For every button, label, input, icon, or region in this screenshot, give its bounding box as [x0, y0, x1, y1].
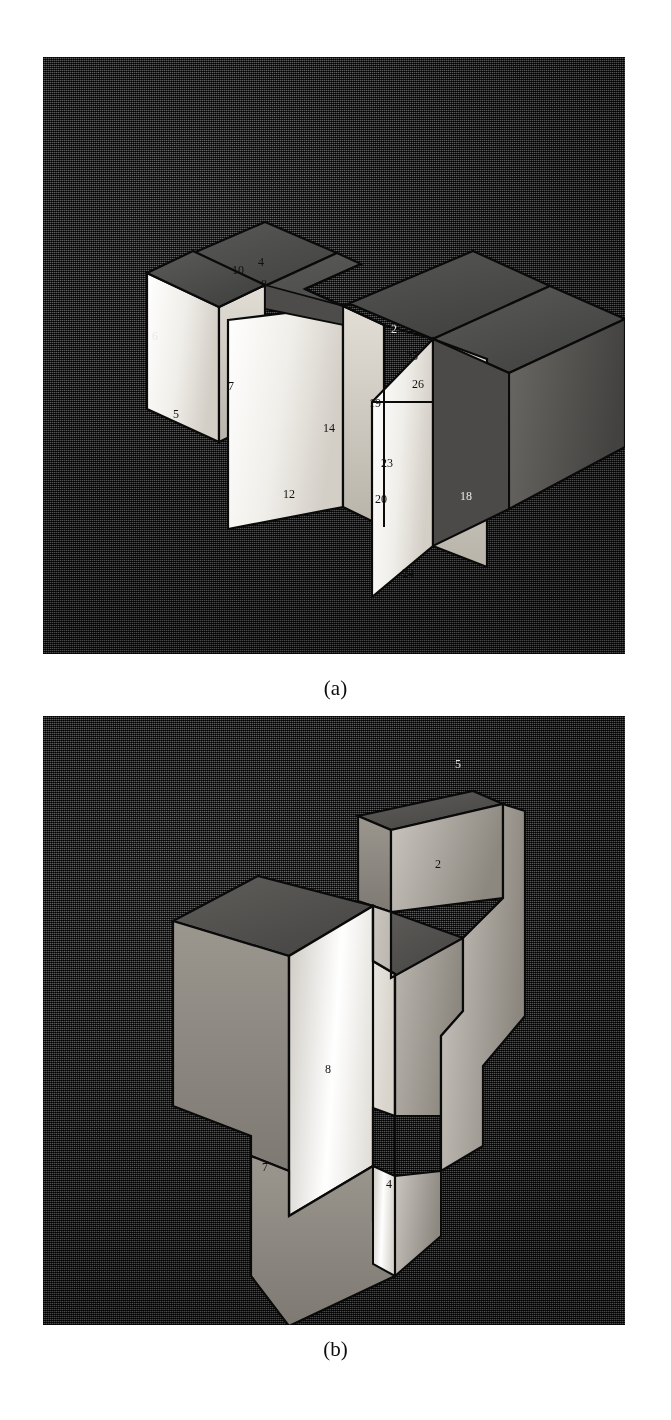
caption-b: (b) [0, 1337, 671, 1362]
caption-a: (a) [0, 676, 671, 701]
panel-b-left-face [173, 921, 289, 1171]
label-a-5: 14 [323, 421, 335, 435]
panel-a: 10 4 8 7 12 14 5 6 25 26 19 23 20 24 18 … [43, 57, 625, 654]
label-b-0: 2 [435, 857, 441, 871]
label-a-10: 19 [369, 396, 381, 410]
label-a-0: 10 [232, 263, 244, 277]
panel-b-lower-extension [251, 1156, 441, 1325]
label-a-4: 12 [283, 487, 295, 501]
label-b-2: 4 [386, 1177, 392, 1191]
panel-b-upper-boss [358, 791, 503, 912]
figure-container: 10 4 8 7 12 14 5 6 25 26 19 23 20 24 18 … [0, 0, 671, 1420]
panel-a-solid-model: 10 4 8 7 12 14 5 6 25 26 19 23 20 24 18 … [43, 57, 625, 654]
label-b-4: 5 [455, 757, 461, 771]
label-b-3: 7 [262, 1160, 268, 1174]
label-a-7: 6 [152, 329, 158, 343]
label-a-6: 5 [173, 407, 179, 421]
label-a-9: 26 [412, 377, 424, 391]
label-b-1: 8 [325, 1062, 331, 1076]
label-a-2: 8 [261, 277, 267, 291]
panel-b-solid-model: 2 8 4 7 5 [43, 716, 625, 1325]
label-a-13: 24 [402, 566, 414, 580]
panel-b: 2 8 4 7 5 [43, 716, 625, 1325]
label-a-15: 2 [391, 322, 397, 336]
label-a-14: 18 [460, 489, 472, 503]
label-a-11: 23 [381, 456, 393, 470]
label-a-8: 25 [406, 349, 418, 363]
label-a-3: 7 [228, 379, 234, 393]
label-a-12: 20 [375, 492, 387, 506]
panel-a-center-slab [228, 306, 384, 529]
label-a-1: 4 [258, 255, 264, 269]
